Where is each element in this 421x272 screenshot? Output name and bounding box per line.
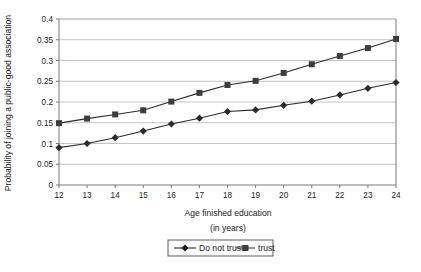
y-tick-label-5: 0.25: [37, 77, 53, 86]
square-marker-icon: [243, 245, 249, 251]
data-point-trust-23: [365, 45, 371, 51]
x-tick-label-2: 14: [111, 191, 121, 200]
y-tick-label-7: 0.35: [37, 36, 53, 45]
x-tick-label-7: 19: [251, 191, 261, 200]
y-tick-label-8: 0.4: [42, 15, 54, 24]
data-point-trust-17: [196, 90, 202, 96]
data-point-trust-20: [281, 70, 287, 76]
x-tick-label-6: 18: [223, 191, 233, 200]
x-tick-label-0: 12: [54, 191, 64, 200]
data-point-trust-13: [84, 116, 90, 122]
y-tick-label-1: 0.05: [37, 160, 53, 169]
data-point-trust-24: [393, 36, 399, 42]
chart-figure: 00.050.10.150.20.250.30.350.4 1213141516…: [0, 0, 421, 272]
x-tick-label-10: 22: [335, 191, 345, 200]
x-tick-label-1: 13: [83, 191, 93, 200]
data-point-trust-22: [337, 53, 343, 59]
x-tick-label-4: 16: [167, 191, 177, 200]
y-tick-label-3: 0.15: [37, 119, 53, 128]
x-tick-label-3: 15: [139, 191, 149, 200]
x-tick-label-5: 17: [195, 191, 205, 200]
x-axis-title: Age finished education: [185, 208, 272, 218]
data-point-trust-19: [253, 78, 259, 84]
x-tick-label-11: 23: [363, 191, 373, 200]
line-chart: 00.050.10.150.20.250.30.350.4 1213141516…: [0, 0, 421, 272]
chart-legend: Do not trust trust: [168, 240, 275, 256]
data-point-trust-15: [140, 107, 146, 113]
x-tick-label-12: 24: [391, 191, 401, 200]
x-axis-title-units: (in years): [210, 223, 246, 233]
data-point-trust-14: [112, 111, 118, 117]
legend-label-trust: trust: [258, 243, 275, 253]
y-tick-label-2: 0.1: [42, 140, 54, 149]
y-axis-title: Probability of joining a public-good ass…: [3, 15, 13, 192]
x-tick-label-9: 21: [307, 191, 317, 200]
y-tick-label-0: 0: [48, 181, 53, 190]
data-point-trust-12: [56, 120, 62, 126]
y-tick-label-6: 0.3: [42, 57, 54, 66]
data-point-trust-18: [225, 82, 231, 88]
data-point-trust-16: [168, 99, 174, 105]
x-tick-label-8: 20: [279, 191, 289, 200]
data-point-trust-21: [309, 61, 315, 67]
y-tick-label-4: 0.2: [42, 98, 54, 107]
